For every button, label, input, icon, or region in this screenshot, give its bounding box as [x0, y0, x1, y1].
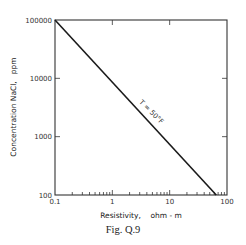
x-axis-label: Resistivity, ohm - m	[100, 211, 182, 220]
svg-text:10000: 10000	[30, 75, 52, 83]
chart-plot: 0.1110100100100010000100000 T = 50°F Res…	[0, 0, 246, 245]
annotations: T = 50°F	[137, 98, 165, 126]
svg-text:100000: 100000	[25, 17, 52, 25]
svg-text:100: 100	[39, 192, 52, 200]
y-axis-label: Concentration NaCl, ppm	[9, 57, 18, 156]
svg-text:10: 10	[165, 198, 174, 206]
svg-text:T = 50°F: T = 50°F	[137, 98, 165, 126]
svg-text:1: 1	[110, 198, 114, 206]
svg-text:100: 100	[220, 198, 233, 206]
svg-text:1000: 1000	[34, 133, 52, 141]
tick-labels: 0.1110100100100010000100000	[25, 17, 233, 207]
data-series	[55, 20, 216, 195]
figure-caption: Fig. Q.9	[0, 224, 246, 235]
